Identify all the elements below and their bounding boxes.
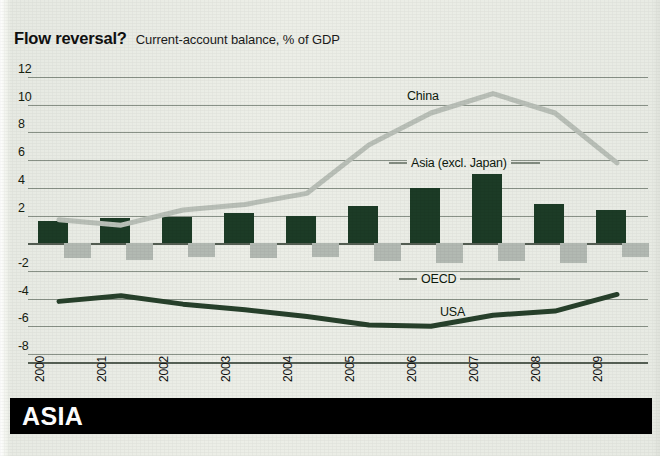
bar-asia-2003 (224, 213, 254, 243)
bar-oecd-2008 (560, 243, 587, 262)
series-label-china: China (407, 89, 439, 103)
y-axis-tick-label: -8 (18, 339, 29, 353)
gridline (28, 160, 648, 161)
y-axis-tick-label: 6 (18, 145, 25, 159)
bar-asia-2002 (162, 217, 192, 243)
y-axis-tick-label: 10 (18, 90, 31, 104)
x-axis-tick-label: 2004 (281, 356, 295, 382)
plot-area: 12108642-2-4-6-8200020012002200320042005… (0, 0, 660, 456)
bar-oecd-2001 (126, 243, 153, 260)
bar-asia-2000 (38, 221, 68, 243)
x-axis-tick-label: 2007 (467, 356, 481, 382)
bar-asia-2007 (472, 174, 502, 243)
y-axis-tick-label: 2 (18, 201, 25, 215)
gridline (28, 77, 648, 78)
gridline (28, 132, 648, 133)
series-label-usa: USA (440, 305, 465, 319)
x-axis-tick-label: 2008 (529, 356, 543, 382)
gridline (28, 326, 648, 327)
bar-oecd-2004 (312, 243, 339, 257)
gridline (28, 188, 648, 189)
bar-asia-2008 (534, 204, 564, 243)
bar-oecd-2009 (622, 243, 649, 257)
bar-oecd-2005 (374, 243, 401, 261)
x-axis-line (28, 362, 648, 364)
bar-oecd-2002 (188, 243, 215, 257)
bar-asia-2005 (348, 206, 378, 243)
y-axis-tick-label: -6 (18, 311, 29, 325)
x-axis-tick-label: 2003 (219, 356, 233, 382)
bar-asia-2001 (100, 218, 130, 243)
bar-asia-2006 (410, 188, 440, 243)
gridline (28, 299, 648, 300)
banner-label: ASIA (22, 402, 83, 431)
bar-asia-2009 (596, 210, 626, 243)
gridline (28, 105, 648, 106)
y-axis-tick-label: 4 (18, 173, 25, 187)
bar-oecd-2000 (64, 243, 91, 258)
y-axis-tick-label: 12 (18, 62, 31, 76)
footer-banner: ASIA (10, 398, 652, 434)
x-axis-tick-label: 2002 (157, 356, 171, 382)
y-axis-tick-label: 8 (18, 117, 25, 131)
x-axis-tick-label: 2006 (405, 356, 419, 382)
gridline (28, 271, 648, 272)
y-axis-tick-label: -2 (18, 256, 29, 270)
gridline (28, 354, 648, 355)
x-axis-tick-label: 2009 (591, 356, 605, 382)
chart-figure: Flow reversal? Current-account balance, … (0, 0, 660, 456)
x-axis-tick-label: 2005 (343, 356, 357, 382)
y-axis-tick-label: -4 (18, 284, 29, 298)
series-label-asia: Asia (excl. Japan) (407, 156, 511, 170)
series-label-oecd: OECD (417, 272, 460, 286)
bar-oecd-2007 (498, 243, 525, 261)
x-axis-tick-label: 2001 (95, 356, 109, 382)
bar-oecd-2006 (436, 243, 463, 262)
bar-asia-2004 (286, 216, 316, 244)
x-axis-tick-label: 2000 (33, 356, 47, 382)
bar-oecd-2003 (250, 243, 277, 258)
